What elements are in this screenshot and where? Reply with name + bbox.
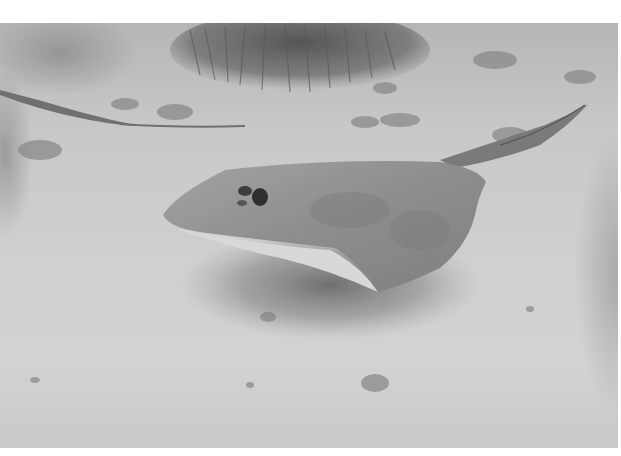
coral-clump [170, 23, 430, 92]
photo-scene [0, 23, 618, 448]
stingray-photo [0, 23, 618, 448]
